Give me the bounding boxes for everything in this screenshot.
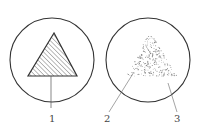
label-2: 2 bbox=[104, 113, 110, 124]
label-3: 3 bbox=[174, 113, 180, 124]
diagram: 1 2 3 bbox=[0, 0, 197, 130]
dotted-triangle bbox=[127, 36, 177, 76]
left-panel: 1 bbox=[10, 18, 94, 124]
leader-line-3 bbox=[168, 83, 177, 112]
leader-line-2 bbox=[109, 72, 134, 112]
label-1: 1 bbox=[49, 113, 55, 124]
right-field-circle bbox=[106, 18, 190, 102]
right-panel: 2 3 bbox=[104, 18, 190, 124]
hatched-triangle bbox=[28, 33, 77, 76]
